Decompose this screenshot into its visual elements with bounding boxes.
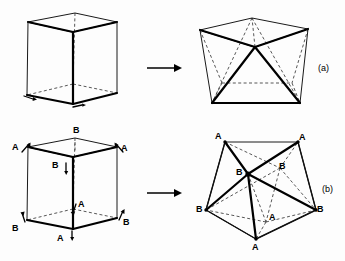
poly-b-label-b-center: B — [236, 168, 243, 177]
cube-b-hidden-bottom-left — [27, 209, 73, 220]
poly-b-label-b-inner: B — [279, 162, 286, 171]
poly-a-hidden-left-edge — [200, 30, 222, 83]
poly-b-label-a-inner: A — [269, 213, 276, 222]
cube-row-a — [24, 13, 117, 107]
arrow-b-head — [174, 189, 182, 197]
cube-b-label-b-botright: B — [123, 218, 130, 227]
cube-a-hidden-bottom-right — [73, 84, 117, 93]
figure-container: (a) (b) B A A B A B B A A A B B B B A A — [0, 0, 345, 261]
cube-b-label-a-bottom: A — [57, 234, 64, 243]
poly-a-top-front-left — [200, 30, 255, 47]
poly-b-vertex-dot-abottom — [254, 237, 257, 240]
polyhedron-row-b — [204, 140, 317, 240]
cube-a-top-front-edge-left — [28, 22, 73, 32]
poly-b-vertex-dot-bleft — [204, 208, 207, 211]
poly-a-top-face — [200, 18, 308, 47]
cube-b-label-a-topright: A — [121, 144, 128, 153]
cube-b-top-front-edge-right — [73, 147, 117, 157]
poly-b-label-a-bottom: A — [252, 243, 259, 252]
panel-label-a: (a) — [318, 64, 329, 73]
poly-b-atr-to-bright — [298, 142, 316, 210]
cube-row-b — [20, 138, 124, 241]
poly-a-hidden-back-apex-right — [252, 18, 300, 103]
cube-b-label-b-botleft: B — [12, 224, 19, 233]
arrow-a-head — [174, 64, 182, 72]
cube-a-vertical-left — [27, 22, 28, 95]
cube-b-arrowhead-a-bottom — [70, 237, 74, 241]
poly-a-apex-to-bottom-right — [255, 47, 300, 103]
poly-a-side-right — [300, 29, 308, 103]
cube-a-top-front-edge-right — [73, 22, 117, 32]
cube-b-vertical-left — [27, 147, 28, 220]
poly-a-side-left — [200, 30, 212, 103]
poly-b-center-to-bright — [248, 174, 316, 210]
cube-b-top-front-edge-left — [28, 147, 73, 157]
transform-arrow-b — [147, 189, 182, 197]
poly-b-label-b-left: B — [196, 205, 203, 214]
poly-b-center-to-atr — [248, 142, 298, 174]
poly-a-hidden-center-to-back — [252, 18, 255, 47]
poly-b-vertex-dot-center — [245, 171, 250, 176]
poly-b-label-a-topleft: A — [215, 132, 222, 141]
transform-arrow-a — [147, 64, 182, 72]
poly-b-vertex-dot-atl — [223, 140, 226, 143]
cube-b-bottom-front-right — [73, 218, 117, 229]
poly-b-center-to-bleft — [206, 174, 248, 210]
poly-b-center-to-abottom — [248, 174, 256, 239]
cube-b-label-b-top: B — [73, 126, 80, 135]
cube-a-bottom-front-right — [73, 93, 117, 104]
cube-a-tick-bottom-front — [73, 105, 82, 107]
cube-b-label-a-inner: A — [78, 200, 85, 209]
poly-b-label-a-topright: A — [299, 133, 306, 142]
polyhedron-row-a — [200, 18, 308, 103]
cube-a-tickhead-bottom-front — [82, 103, 86, 106]
poly-b-label-b-right: B — [317, 205, 324, 214]
cube-b-label-b-inner: B — [52, 161, 59, 170]
cube-b-arrowhead-b-inner-top — [64, 171, 68, 175]
poly-b-atl-to-bleft — [206, 142, 225, 210]
poly-a-hidden-right-edge — [292, 29, 308, 83]
cube-b-bottom-front-left — [27, 220, 73, 229]
poly-b-hidden-binner-to-bleft — [206, 168, 280, 210]
cube-b-top-face — [28, 138, 117, 157]
poly-b-bleft-to-abottom — [206, 210, 256, 239]
figure-drawing — [0, 0, 345, 261]
cube-b-label-a-topleft: A — [12, 143, 19, 152]
cube-b-hidden-bottom-right — [73, 209, 117, 218]
panel-label-b: (b) — [322, 185, 333, 194]
cube-a-hidden-bottom-left — [27, 84, 73, 95]
cube-a-top-face — [28, 13, 117, 32]
